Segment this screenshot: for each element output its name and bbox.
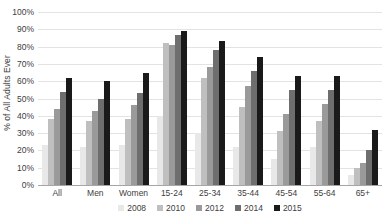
legend-item-2014[interactable]: 2014	[235, 203, 263, 213]
legend-swatch-icon-2014	[235, 205, 241, 211]
x-axis-tick-Men: Men	[76, 186, 114, 200]
legend-item-2010[interactable]: 2010	[157, 203, 185, 213]
x-axis-tick-55-64: 55-64	[306, 186, 344, 200]
y-axis-tick: 70%	[12, 59, 34, 69]
legend-label: 2008	[127, 203, 146, 213]
bar-group	[267, 12, 305, 185]
y-axis-tick: 30%	[12, 128, 34, 138]
x-axis-tick-labels: AllMenWomen15-2425-3435-4445-5455-6465+	[38, 186, 382, 200]
x-axis-tick-25-34: 25-34	[191, 186, 229, 200]
bar-2015-15-24[interactable]	[181, 31, 187, 185]
y-axis-tick: 50%	[12, 94, 34, 104]
chart-legend: 20082010201220142015	[38, 201, 382, 215]
bar-2015-Women[interactable]	[143, 73, 149, 185]
legend-swatch-icon-2015	[274, 205, 280, 211]
y-axis-tick: 90%	[12, 24, 34, 34]
bar-2015-35-44[interactable]	[257, 57, 263, 185]
y-axis-tick: 40%	[12, 111, 34, 121]
y-axis-tick: 10%	[12, 163, 34, 173]
legend-item-2012[interactable]: 2012	[196, 203, 224, 213]
bar-group	[76, 12, 114, 185]
y-axis-tick-labels: 0%10%20%30%40%50%60%70%80%90%100%	[14, 0, 36, 186]
bar-group	[38, 12, 76, 185]
y-axis-tick: 0%	[12, 180, 34, 190]
legend-item-2015[interactable]: 2015	[274, 203, 302, 213]
y-axis-tick: 80%	[12, 42, 34, 52]
bars-layer	[38, 12, 382, 185]
bar-group	[344, 12, 382, 185]
bar-group	[114, 12, 152, 185]
y-axis-tick: 100%	[12, 7, 34, 17]
y-axis-tick: 60%	[12, 76, 34, 86]
bar-group	[153, 12, 191, 185]
legend-swatch-icon-2008	[118, 205, 124, 211]
bar-2015-45-54[interactable]	[295, 76, 301, 185]
bar-2015-All[interactable]	[66, 78, 72, 185]
x-axis-tick-Women: Women	[114, 186, 152, 200]
bar-group	[191, 12, 229, 185]
x-axis-tick-35-44: 35-44	[229, 186, 267, 200]
legend-label: 2012	[205, 203, 224, 213]
y-axis-title-label: % of All Adults Ever	[2, 55, 12, 131]
bar-group	[229, 12, 267, 185]
bar-chart: % of All Adults Ever 0%10%20%30%40%50%60…	[0, 0, 384, 218]
bar-2015-Men[interactable]	[104, 81, 110, 185]
bar-2015-25-34[interactable]	[219, 41, 225, 185]
bar-2015-55-64[interactable]	[334, 76, 340, 185]
x-axis-tick-15-24: 15-24	[153, 186, 191, 200]
bar-group	[306, 12, 344, 185]
legend-swatch-icon-2012	[196, 205, 202, 211]
legend-label: 2015	[283, 203, 302, 213]
bar-2015-65+[interactable]	[372, 130, 378, 185]
legend-item-2008[interactable]: 2008	[118, 203, 146, 213]
x-axis-tick-65+: 65+	[344, 186, 382, 200]
x-axis-tick-All: All	[38, 186, 76, 200]
plot-area	[38, 12, 382, 185]
legend-label: 2014	[244, 203, 263, 213]
legend-label: 2010	[166, 203, 185, 213]
legend-swatch-icon-2010	[157, 205, 163, 211]
y-axis-tick: 20%	[12, 145, 34, 155]
x-axis-tick-45-54: 45-54	[267, 186, 305, 200]
